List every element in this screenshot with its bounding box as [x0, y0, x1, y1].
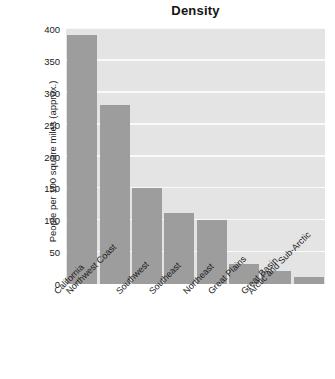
bar-chart-figure: Density People per 100 square miles (app…	[0, 0, 335, 379]
x-tick-label: Arctic and Sub-Arctic	[246, 230, 312, 296]
x-axis-tick-labels: CaliforniaNorthwest CoastSouthwestSouthe…	[0, 0, 335, 379]
x-tick-label: Southeast	[147, 260, 183, 296]
x-tick-label: Southwest	[114, 259, 151, 296]
